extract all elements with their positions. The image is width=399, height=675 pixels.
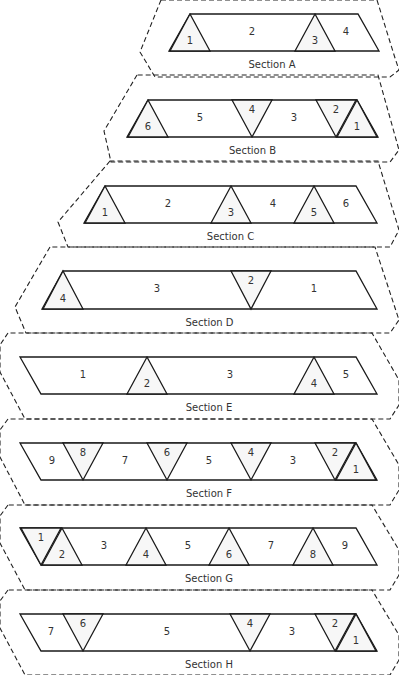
region-label: 3	[101, 540, 107, 551]
triangle-label: 8	[310, 549, 316, 560]
section-f: 864219753Section F	[0, 419, 399, 505]
triangle-label: 5	[311, 207, 317, 218]
section-c: 135246Section C	[58, 161, 399, 247]
triangle-label: 3	[228, 207, 234, 218]
section-caption: Section H	[185, 659, 233, 670]
region-label: 3	[289, 626, 295, 637]
triangle-label: 6	[80, 618, 86, 629]
region-label: 5	[164, 626, 170, 637]
triangle-label: 2	[59, 549, 65, 560]
region-label: 3	[154, 283, 160, 294]
section-caption: Section C	[207, 231, 254, 242]
triangle-label: 4	[311, 378, 317, 389]
triangle-label: 1	[353, 635, 359, 646]
triangle-label: 2	[332, 618, 338, 629]
region-label: 5	[206, 455, 212, 466]
triangle-label: 4	[248, 447, 254, 458]
triangle-label: 6	[226, 549, 232, 560]
triangle-label: 4	[60, 293, 66, 304]
triangle-label: 6	[164, 447, 170, 458]
triangle-label: 1	[38, 532, 44, 543]
region-label: 3	[290, 455, 296, 466]
triangle-label: 1	[187, 35, 193, 46]
triangle-label: 1	[354, 121, 360, 132]
section-caption: Section A	[248, 59, 295, 70]
triangle-label: 1	[353, 464, 359, 475]
region-label: 5	[197, 112, 203, 123]
region-label: 6	[343, 198, 349, 209]
section-caption: Section F	[186, 488, 232, 499]
section-caption: Section G	[185, 573, 233, 584]
region-label: 3	[227, 369, 233, 380]
region-label: 7	[122, 455, 128, 466]
strip-diagram: 1324Section A642153Section B135246Sectio…	[0, 0, 399, 675]
region-label: 5	[185, 540, 191, 551]
triangle-label: 2	[333, 104, 339, 115]
region-label: 1	[80, 369, 86, 380]
triangle-label: 2	[144, 378, 150, 389]
triangle-label: 4	[247, 618, 253, 629]
triangle-label: 2	[248, 275, 254, 286]
triangle-label: 4	[249, 104, 255, 115]
section-caption: Section D	[185, 317, 233, 328]
region-label: 7	[48, 626, 54, 637]
section-b: 642153Section B	[104, 75, 399, 162]
section-caption: Section B	[229, 145, 276, 156]
region-label: 9	[342, 540, 348, 551]
triangle-label: 2	[332, 447, 338, 458]
section-d: 4231Section D	[15, 247, 399, 333]
region-label: 5	[343, 369, 349, 380]
triangle-label: 8	[80, 447, 86, 458]
section-a: 1324Section A	[140, 0, 399, 77]
region-label: 1	[311, 283, 317, 294]
triangle-label: 1	[102, 207, 108, 218]
triangle-label: 4	[143, 549, 149, 560]
region-label: 2	[165, 198, 171, 209]
region-label: 4	[270, 198, 276, 209]
region-label: 2	[249, 26, 255, 37]
triangle-label: 3	[312, 35, 318, 46]
region-label: 3	[291, 112, 297, 123]
strip	[42, 271, 377, 309]
section-caption: Section E	[186, 402, 233, 413]
region-label: 7	[268, 540, 274, 551]
section-g: 124683579Section G	[0, 505, 399, 590]
section-e: 24135Section E	[0, 333, 399, 419]
region-label: 9	[49, 455, 55, 466]
section-h: 6421753Section H	[0, 590, 399, 675]
region-label: 4	[343, 26, 349, 37]
triangle-label: 6	[145, 121, 151, 132]
